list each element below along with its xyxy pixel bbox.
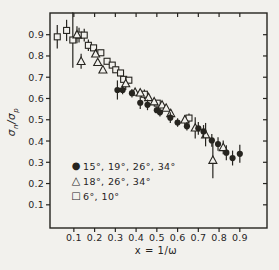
svg-text:0.4: 0.4	[28, 136, 44, 147]
y-label-sub-p: p	[12, 108, 20, 113]
legend-item-circles: ● 15°, 19°, 26°, 34°	[69, 159, 199, 173]
legend-item-triangles: △ 18°, 26°, 34°	[69, 174, 199, 188]
y-label-sigma-p: σ	[5, 113, 17, 120]
y-label-sub-n: n	[12, 124, 20, 129]
legend-label-squares: 6°, 10°	[83, 191, 119, 202]
legend-label-triangles: 18°, 26°, 34°	[83, 176, 151, 187]
y-label-slash: /	[5, 120, 17, 124]
plot-canvas: 0.10.20.30.40.50.60.70.80.90.10.20.30.40…	[0, 0, 279, 270]
svg-text:0.5: 0.5	[28, 114, 44, 125]
open-triangle-marker-icon: △	[69, 174, 83, 188]
legend: ● 15°, 19°, 26°, 34° △ 18°, 26°, 34° □ 6…	[69, 159, 199, 203]
svg-text:0.7: 0.7	[190, 232, 206, 243]
svg-text:0.6: 0.6	[28, 93, 44, 104]
svg-text:0.1: 0.1	[28, 199, 44, 210]
svg-text:0.2: 0.2	[28, 178, 44, 189]
svg-text:0.7: 0.7	[28, 72, 44, 83]
svg-text:0.9: 0.9	[28, 29, 44, 40]
scanned-figure-page: { "colors": { "ink": "#26241f", "backgro…	[0, 0, 279, 270]
legend-item-squares: □ 6°, 10°	[69, 189, 199, 203]
y-label-sigma-n: σ	[5, 129, 17, 136]
svg-text:0.2: 0.2	[87, 232, 103, 243]
svg-text:0.3: 0.3	[107, 232, 123, 243]
svg-text:0.8: 0.8	[28, 50, 44, 61]
x-axis-label: x = 1/ω	[108, 245, 204, 256]
svg-text:0.4: 0.4	[128, 232, 144, 243]
svg-text:0.1: 0.1	[66, 232, 82, 243]
svg-text:0.5: 0.5	[149, 232, 165, 243]
legend-label-circles: 15°, 19°, 26°, 34°	[83, 161, 176, 172]
svg-text:0.8: 0.8	[211, 232, 227, 243]
scatter-figure: 0.10.20.30.40.50.60.70.80.90.10.20.30.40…	[0, 0, 279, 270]
filled-circle-marker-icon: ●	[69, 159, 83, 173]
svg-text:0.3: 0.3	[28, 157, 44, 168]
open-square-marker-icon: □	[69, 189, 83, 203]
y-axis-label: σn/σp	[5, 95, 21, 149]
svg-text:0.6: 0.6	[170, 232, 186, 243]
svg-text:0.9: 0.9	[232, 232, 248, 243]
